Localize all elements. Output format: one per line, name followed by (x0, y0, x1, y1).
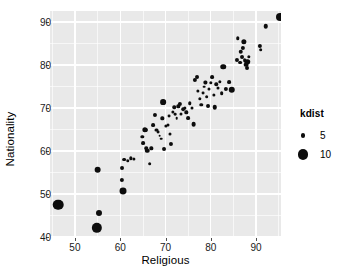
gridline-major-horizontal (50, 236, 281, 237)
data-point (241, 46, 245, 50)
data-point (176, 117, 179, 120)
data-point (141, 135, 144, 138)
data-point (198, 97, 201, 100)
data-point (203, 85, 206, 88)
data-point (214, 83, 218, 87)
gridline-minor-horizontal (50, 172, 281, 173)
data-point (151, 123, 155, 127)
data-point (121, 166, 125, 170)
data-point (172, 105, 176, 109)
legend-item[interactable]: 10 (292, 145, 360, 164)
data-point (238, 50, 242, 54)
gridline-major-vertical (120, 11, 121, 237)
gridline-major-horizontal (50, 193, 281, 194)
gridline-major-horizontal (50, 107, 281, 108)
data-point (183, 106, 186, 109)
gridline-minor-horizontal (50, 215, 281, 216)
gridline-major-horizontal (50, 21, 281, 22)
data-point (188, 102, 192, 106)
data-point (160, 137, 163, 140)
data-point (166, 124, 169, 127)
data-point (162, 147, 166, 151)
data-point (157, 131, 160, 134)
data-point (209, 81, 212, 84)
data-point (53, 199, 64, 210)
gridline-major-vertical (74, 11, 75, 237)
data-point (148, 162, 152, 166)
data-point (91, 222, 101, 232)
x-axis-title: Religious (50, 254, 281, 266)
gridline-minor-horizontal (50, 43, 281, 44)
data-point (212, 93, 215, 96)
legend-title: kdist (300, 108, 360, 119)
data-point (195, 75, 199, 79)
data-point (168, 115, 171, 118)
data-point (218, 80, 221, 83)
data-point (236, 37, 240, 41)
y-tick-label: 80 (40, 60, 51, 71)
data-point (205, 95, 209, 99)
data-point (143, 128, 147, 132)
data-point (197, 89, 200, 92)
y-tick-label: 40 (40, 232, 51, 243)
x-tick-mark (166, 238, 167, 241)
data-point (133, 158, 136, 161)
data-point (160, 99, 166, 105)
gridline-major-vertical (210, 11, 211, 237)
data-point (204, 81, 207, 84)
data-point (119, 188, 126, 195)
scatter-plot-figure: Nationality 405060708090 5060708090 Reli… (0, 0, 362, 278)
gridline-major-horizontal (50, 150, 281, 151)
data-point (263, 24, 267, 28)
gridline-minor-vertical (188, 11, 189, 237)
legend-point-icon (301, 133, 306, 138)
data-point (191, 122, 196, 127)
data-point (220, 91, 224, 95)
gridline-major-vertical (255, 11, 256, 237)
y-tick-label: 90 (40, 17, 51, 28)
legend-item-label: 10 (320, 149, 331, 160)
data-point (206, 104, 210, 108)
gridline-minor-vertical (278, 11, 279, 237)
data-point (186, 116, 190, 120)
data-point (201, 92, 204, 95)
legend-key-swatch (292, 149, 314, 159)
data-point (94, 166, 101, 173)
data-point (210, 75, 214, 79)
x-tick-mark (75, 238, 76, 241)
data-point (221, 64, 227, 70)
data-point (259, 48, 263, 52)
x-tick-label: 50 (69, 242, 80, 253)
data-point (228, 86, 234, 92)
data-point (177, 102, 181, 106)
gridline-minor-horizontal (50, 129, 281, 130)
data-point (180, 113, 183, 116)
plot-panel (50, 11, 281, 237)
data-point (200, 103, 204, 107)
x-tick-mark (120, 238, 121, 241)
data-point (153, 113, 157, 117)
data-point (141, 141, 145, 145)
data-point (174, 113, 177, 116)
data-point (227, 80, 231, 84)
legend-point-icon (298, 149, 308, 159)
x-tick-mark (211, 238, 212, 241)
data-point (217, 87, 220, 90)
data-point (168, 133, 171, 136)
y-axis-title: Nationality (0, 0, 20, 278)
data-point (247, 55, 250, 58)
x-tick-label: 70 (160, 242, 171, 253)
data-point (190, 107, 193, 110)
data-point (145, 148, 149, 152)
legend-key-swatch (292, 133, 314, 138)
x-tick-mark (256, 238, 257, 241)
data-point (276, 13, 281, 21)
data-point (96, 210, 102, 216)
x-tick-label: 90 (251, 242, 262, 253)
data-point (120, 178, 124, 182)
data-point (161, 117, 164, 120)
legend-item[interactable]: 5 (292, 126, 360, 145)
gridline-minor-vertical (143, 11, 144, 237)
data-point (244, 59, 250, 65)
data-point (246, 66, 250, 70)
